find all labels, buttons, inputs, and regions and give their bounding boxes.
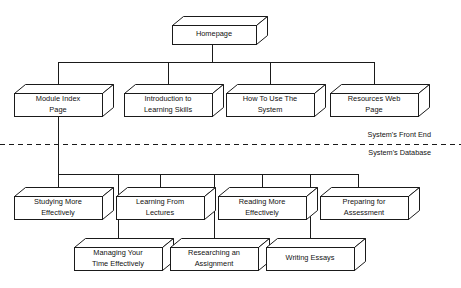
node-box-writing[interactable] (267, 239, 366, 271)
node-box-how-to-use[interactable] (227, 85, 326, 117)
node-box-top-face (331, 85, 430, 94)
node-box-front-face (267, 248, 355, 271)
node-box-homepage[interactable] (173, 17, 268, 45)
node-box-top-face (171, 239, 270, 248)
node-box-front-face (125, 94, 213, 117)
node-box-front-face (173, 26, 257, 45)
node-box-front-face (219, 197, 307, 220)
node-box-front-face (15, 197, 103, 220)
node-box-researching[interactable] (171, 239, 270, 271)
boxes-layer (0, 0, 461, 288)
node-box-managing[interactable] (75, 239, 174, 271)
node-box-top-face (227, 85, 326, 94)
node-box-top-face (125, 85, 224, 94)
node-box-top-face (173, 17, 268, 26)
database-zone-label: System's Database (368, 148, 431, 157)
node-box-top-face (219, 188, 318, 197)
node-box-top-face (267, 239, 366, 248)
node-box-front-face (171, 248, 259, 271)
node-box-preparing[interactable] (321, 188, 420, 220)
system-architecture-diagram: HomepageModule Index PageIntroduction to… (0, 0, 461, 288)
node-box-top-face (15, 188, 114, 197)
node-box-reading[interactable] (219, 188, 318, 220)
node-box-front-face (331, 94, 419, 117)
node-box-top-face (75, 239, 174, 248)
node-box-front-face (321, 197, 409, 220)
node-box-front-face (117, 197, 205, 220)
node-box-top-face (117, 188, 216, 197)
node-box-resources[interactable] (331, 85, 430, 117)
node-box-front-face (227, 94, 315, 117)
node-box-studying[interactable] (15, 188, 114, 220)
node-box-intro[interactable] (125, 85, 224, 117)
node-box-front-face (75, 248, 163, 271)
node-box-module-index[interactable] (15, 85, 114, 117)
node-box-front-face (15, 94, 103, 117)
node-box-top-face (15, 85, 114, 94)
front-end-zone-label: System's Front End (368, 130, 431, 139)
node-box-learning[interactable] (117, 188, 216, 220)
node-box-top-face (321, 188, 420, 197)
